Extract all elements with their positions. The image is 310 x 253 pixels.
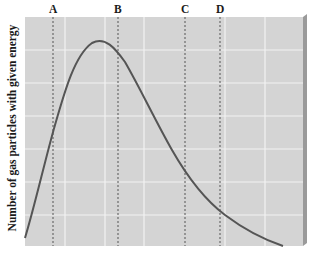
y-axis-label: Number of gas particles with given energ… <box>6 8 22 248</box>
marker-label-c: C <box>181 3 189 15</box>
energy-distribution-chart: A B C D Number of gas particles with giv… <box>0 0 310 253</box>
marker-label-b: B <box>114 3 122 15</box>
marker-label-a: A <box>49 3 58 15</box>
chart-canvas: A B C D <box>0 0 310 253</box>
plot-area <box>25 17 303 246</box>
plot-edge-shadow <box>303 14 307 246</box>
marker-label-d: D <box>216 3 224 15</box>
